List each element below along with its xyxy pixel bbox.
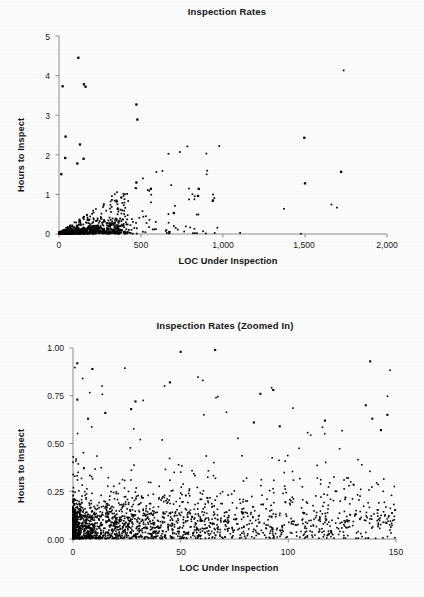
x-tick-bottom-150: 150 <box>376 547 416 557</box>
y-tick-bottom-100: 1.00 <box>26 343 64 353</box>
x-tick-bottom-0: 0 <box>53 547 93 557</box>
y-tick-bottom-000: 0.00 <box>26 535 64 545</box>
x-tick-bottom-100: 100 <box>268 547 308 557</box>
x-tick-top-2000: 2,000 <box>367 240 407 250</box>
document-page: Inspection Rates Hours to Inspect LOC Un… <box>0 0 424 597</box>
y-tick-top-1: 1 <box>28 190 50 200</box>
y-tick-top-4: 4 <box>28 71 50 81</box>
x-tick-top-0: 0 <box>39 240 79 250</box>
x-tick-top-500: 500 <box>121 240 161 250</box>
y-tick-top-3: 3 <box>28 111 50 121</box>
x-tick-top-1000: 1,000 <box>203 240 243 250</box>
x-tick-top-1500: 1,500 <box>284 240 324 250</box>
chart-inspection-rates-zoomed: Inspection Rates (Zoomed In) Hours to In… <box>0 300 424 597</box>
chart-inspection-rates-full: Inspection Rates Hours to Inspect LOC Un… <box>0 0 424 290</box>
x-tick-bottom-50: 50 <box>161 547 201 557</box>
y-tick-bottom-075: 0.75 <box>26 391 64 401</box>
y-tick-top-2: 2 <box>28 151 50 161</box>
y-tick-bottom-025: 0.25 <box>26 487 64 497</box>
y-tick-top-5: 5 <box>28 32 50 42</box>
y-tick-top-0: 0 <box>28 229 50 239</box>
y-tick-bottom-050: 0.50 <box>26 439 64 449</box>
